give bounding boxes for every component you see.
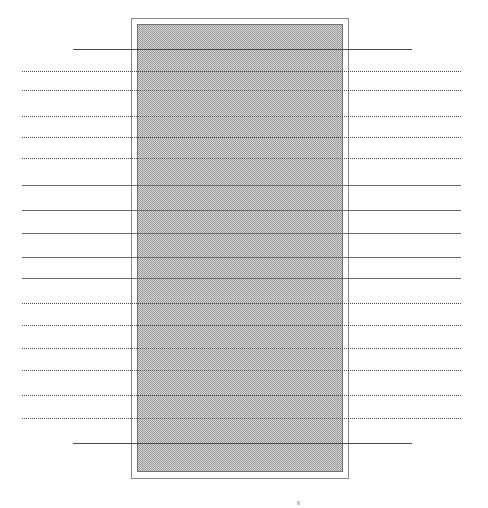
horizontal-line-9 [22, 233, 461, 234]
horizontal-line-1 [73, 49, 412, 50]
drawing-canvas [0, 0, 488, 508]
artifact-speck [297, 501, 300, 505]
horizontal-lines-layer [0, 0, 488, 508]
horizontal-line-15 [22, 370, 461, 371]
horizontal-line-2 [22, 71, 461, 72]
horizontal-line-13 [22, 325, 461, 326]
horizontal-line-12 [22, 303, 461, 304]
horizontal-line-18 [73, 443, 412, 444]
horizontal-line-11 [22, 278, 461, 279]
horizontal-line-7 [22, 185, 461, 186]
horizontal-line-10 [22, 257, 461, 258]
horizontal-line-16 [22, 395, 461, 396]
horizontal-line-14 [22, 348, 461, 349]
horizontal-line-4 [22, 116, 461, 117]
horizontal-line-5 [22, 137, 461, 138]
horizontal-line-3 [22, 90, 461, 91]
horizontal-line-6 [22, 158, 461, 159]
horizontal-line-8 [22, 210, 461, 211]
horizontal-line-17 [22, 418, 461, 419]
